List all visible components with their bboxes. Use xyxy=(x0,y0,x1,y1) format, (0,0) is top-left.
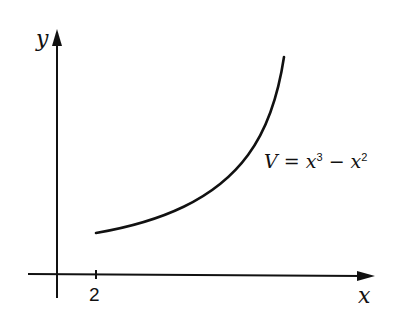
y-axis-arrow-icon xyxy=(52,29,62,46)
eq-var: V xyxy=(264,150,278,172)
y-axis-label: y xyxy=(36,26,48,51)
x-tick-label: 2 xyxy=(89,284,100,306)
curve-v-equals-x-cubed-minus-x-squared xyxy=(96,57,284,233)
eq-term2: x xyxy=(351,150,362,172)
x-axis-label: x xyxy=(358,283,370,308)
eq-equals: = xyxy=(284,150,300,172)
x-axis-arrow-icon xyxy=(357,271,375,281)
eq-term1: x xyxy=(306,150,317,172)
x-axis xyxy=(28,274,362,276)
curve-equation-label: V = x3 − x2 xyxy=(264,150,367,172)
eq-minus: − xyxy=(329,150,345,172)
eq-exp1: 3 xyxy=(316,151,322,163)
eq-exp2: 2 xyxy=(361,151,367,163)
